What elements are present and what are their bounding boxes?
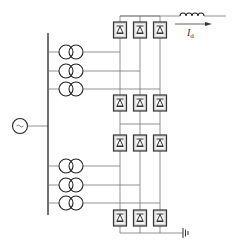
transformer-feeds — [83, 52, 160, 203]
transformer-icon — [48, 178, 83, 192]
thyristor-module — [114, 22, 127, 38]
column-wires — [120, 16, 160, 233]
transformer-winding-secondary — [69, 64, 83, 78]
sine-symbol — [17, 125, 24, 127]
transformer-winding-secondary — [69, 196, 83, 210]
ac-source — [13, 119, 49, 134]
transformer-winding-secondary — [69, 159, 83, 173]
thyristor-module — [114, 95, 127, 111]
transformer-icon — [48, 159, 83, 173]
transformer-group-lower — [48, 159, 83, 210]
transformer-icon — [48, 82, 83, 96]
thyristor-module — [134, 135, 147, 151]
thyristor-module — [114, 135, 127, 151]
transformer-icon — [48, 196, 83, 210]
current-label: Id — [186, 27, 194, 40]
transformer-icon — [48, 64, 83, 78]
transformer-group-upper — [48, 45, 83, 96]
ground-icon — [183, 228, 188, 238]
thyristor-module — [134, 210, 147, 226]
thyristor-module — [154, 135, 167, 151]
transformer-icon — [48, 45, 83, 59]
transformer-winding-secondary — [69, 82, 83, 96]
dc-return — [120, 228, 188, 238]
thyristor-module — [134, 22, 147, 38]
arrow-head-icon — [205, 22, 212, 26]
circuit-diagram: Id — [0, 0, 240, 248]
thyristor-module — [154, 95, 167, 111]
transformer-winding-secondary — [69, 178, 83, 192]
thyristor-module — [154, 22, 167, 38]
thyristor-module — [114, 210, 127, 226]
thyristor-module — [134, 95, 147, 111]
transformer-winding-secondary — [69, 45, 83, 59]
inductor-icon — [180, 13, 204, 16]
thyristor-module — [154, 210, 167, 226]
